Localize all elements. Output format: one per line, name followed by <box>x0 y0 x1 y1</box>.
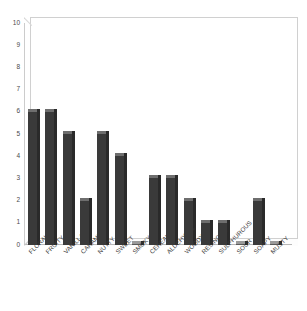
bar-top-face <box>115 153 124 156</box>
bar[interactable] <box>45 112 54 245</box>
bar-top-face <box>45 109 54 112</box>
plot-area <box>25 23 291 245</box>
bar-top-face <box>149 175 158 178</box>
bar-top-face <box>80 198 89 201</box>
bar-top-face <box>63 131 72 134</box>
y-axis-tick: 9 <box>2 42 20 49</box>
bar[interactable] <box>149 178 158 245</box>
bar-side-face <box>54 109 57 245</box>
y-axis-tick: 2 <box>2 197 20 204</box>
bar-top-face <box>201 220 210 223</box>
bar-side-face <box>106 131 109 245</box>
y-axis-tick: 1 <box>2 219 20 226</box>
bar-top-face <box>28 109 37 112</box>
bar-side-face <box>158 175 161 245</box>
y-axis-tick: 4 <box>2 153 20 160</box>
bar[interactable] <box>63 134 72 245</box>
bar-top-face <box>253 198 262 201</box>
bar-side-face <box>124 153 127 245</box>
bar-top-face <box>184 198 193 201</box>
y-axis-tick: 3 <box>2 175 20 182</box>
bar[interactable] <box>253 201 262 245</box>
bar-top-face <box>218 220 227 223</box>
bar-top-face <box>97 131 106 134</box>
y-axis-tick: 5 <box>2 131 20 138</box>
bar[interactable] <box>28 112 37 245</box>
bar-top-face <box>166 175 175 178</box>
x-axis: FLORALFRUITYVANILLACARAMELNUTTYSWEETSMOK… <box>0 246 307 311</box>
y-axis-tick: 7 <box>2 86 20 93</box>
bar[interactable] <box>115 156 124 245</box>
bar-side-face <box>175 175 178 245</box>
bar-chart: 012345678910 FLORALFRUITYVANILLACARAMELN… <box>0 0 307 311</box>
y-axis-tick: 6 <box>2 108 20 115</box>
bar-side-face <box>72 131 75 245</box>
bar-side-face <box>37 109 40 245</box>
y-axis-tick: 10 <box>2 20 20 27</box>
y-axis-tick: 8 <box>2 64 20 71</box>
y-axis: 012345678910 <box>0 0 24 250</box>
